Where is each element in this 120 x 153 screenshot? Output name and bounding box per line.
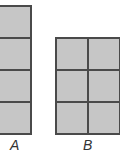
grid-cell <box>0 103 30 133</box>
shape-b-grid <box>55 37 120 135</box>
grid-cell <box>57 103 87 133</box>
grid-cell <box>0 39 30 69</box>
shape-a-label: A <box>10 138 19 152</box>
grid-cell <box>0 71 30 101</box>
grid-cell <box>57 39 87 69</box>
grid-cell <box>57 71 87 101</box>
grid-cell <box>89 71 119 101</box>
shape-a-grid <box>0 5 32 135</box>
grid-cell <box>0 7 30 37</box>
grid-cell <box>89 39 119 69</box>
shape-b-label: B <box>83 138 92 152</box>
grid-cell <box>89 103 119 133</box>
